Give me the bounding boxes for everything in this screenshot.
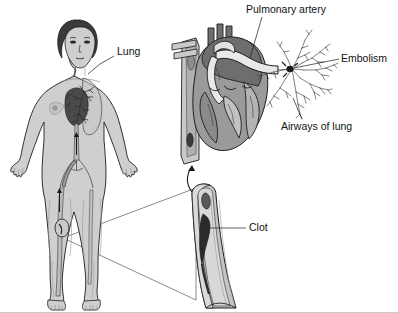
- nipple: [53, 106, 57, 110]
- vena-cava-clot: [187, 133, 193, 147]
- label-clot: Clot: [249, 221, 268, 233]
- pulmonary-embolism-diagram: Lung Pulmonary artery Embolism Airways o…: [0, 0, 398, 313]
- label-lung: Lung: [117, 45, 141, 57]
- label-pulmonary-artery: Pulmonary artery: [246, 3, 327, 15]
- label-airways-of-lung: Airways of lung: [281, 120, 352, 132]
- eye-left: [70, 40, 76, 43]
- label-embolism: Embolism: [341, 52, 387, 64]
- eye-right: [84, 40, 90, 43]
- diagram-canvas: Lung Pulmonary artery Embolism Airways o…: [0, 0, 398, 313]
